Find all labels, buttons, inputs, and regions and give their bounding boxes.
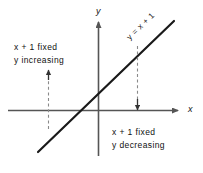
x-axis-label: x: [188, 105, 193, 114]
annotation-left: x + 1 fixed y increasing: [14, 41, 64, 67]
annotation-right-line1: x + 1 fixed: [112, 126, 165, 139]
figure-canvas: [0, 0, 203, 173]
annotation-right: x + 1 fixed y decreasing: [112, 126, 165, 152]
y-axis-label: y: [96, 7, 101, 16]
annotation-right-line2: y decreasing: [112, 139, 165, 152]
figure-container: x y y = x + 1 x + 1 fixed y increasing x…: [0, 0, 203, 173]
annotation-left-line1: x + 1 fixed: [14, 41, 64, 54]
annotation-left-line2: y increasing: [14, 54, 64, 67]
